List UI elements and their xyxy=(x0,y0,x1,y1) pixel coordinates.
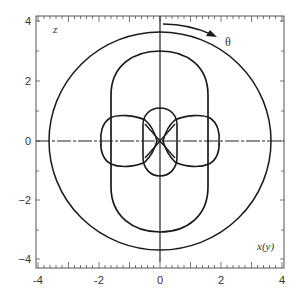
x-tick-neg4: -4 xyxy=(33,274,43,286)
z-tick-2: 2 xyxy=(25,75,31,87)
x-axis-label: x(y) xyxy=(256,240,274,253)
arrowhead-icon xyxy=(206,30,217,37)
z-axis-label: z xyxy=(52,23,58,35)
z-tick-4: 4 xyxy=(25,15,31,27)
z-tick-neg4: −4 xyxy=(18,253,31,265)
z-tick-neg2: −2 xyxy=(18,194,31,206)
x-tick-0: 0 xyxy=(157,274,163,286)
x-tick-neg2: -2 xyxy=(94,274,104,286)
theta-label: θ xyxy=(225,35,231,49)
theta-arrow-line xyxy=(163,24,213,35)
z-tick-0: 0 xyxy=(25,135,31,147)
x-tick-2: 2 xyxy=(218,274,224,286)
x-tick-4: 4 xyxy=(279,274,285,286)
polar-diagram: 4 2 0 −2 −4 -4 -2 0 2 4 z x(y) θ xyxy=(0,0,299,296)
